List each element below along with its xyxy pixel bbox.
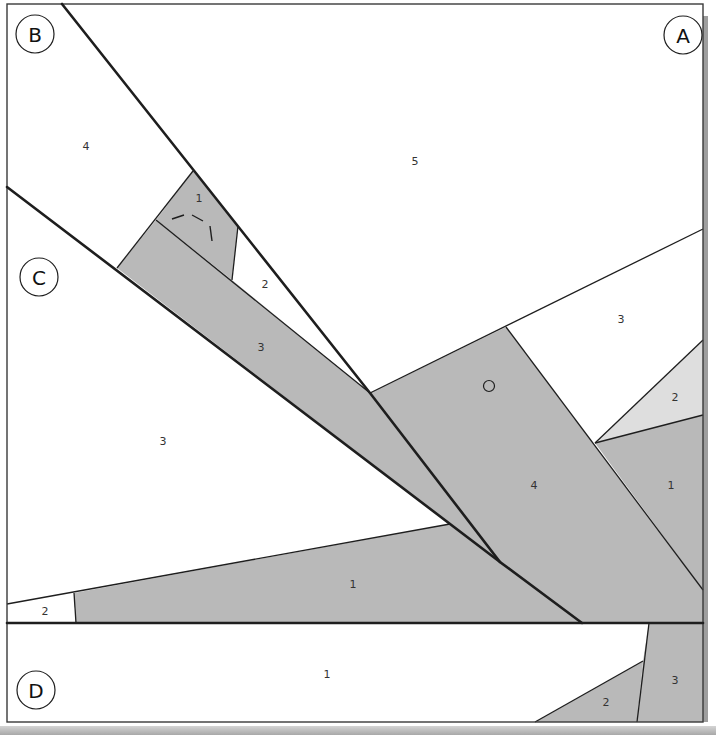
svg-text:B: B (28, 23, 42, 47)
piece-number-b3: 3 (258, 341, 265, 354)
piece-number-a1: 1 (668, 479, 675, 492)
right-edge-strip (703, 16, 708, 722)
svg-text:C: C (32, 266, 46, 290)
piece-number-a4: 4 (531, 479, 538, 492)
piece-number-b4: 4 (83, 140, 90, 153)
piece-number-d1: 1 (324, 668, 331, 681)
piece-number-b2: 2 (262, 278, 269, 291)
piece-number-c2: 2 (42, 605, 49, 618)
piece-number-a2: 2 (672, 391, 679, 404)
section-label-d: D (17, 671, 55, 709)
piece-number-a3: 3 (618, 313, 625, 326)
svg-text:D: D (28, 679, 43, 703)
piecing-diagram: A B C D 5 3 2 4 1 4 1 2 3 3 1 2 1 2 3 (0, 0, 716, 735)
piece-number-d3: 3 (672, 674, 679, 687)
piece-number-a5: 5 (412, 155, 419, 168)
piece-number-c1: 1 (350, 578, 357, 591)
piece-number-c3: 3 (160, 435, 167, 448)
section-label-a: A (664, 16, 702, 54)
svg-text:A: A (676, 24, 690, 48)
section-label-c: C (20, 258, 58, 296)
piece-number-b1: 1 (196, 192, 203, 205)
piece-number-d2: 2 (603, 696, 610, 709)
bottom-edge-strip (0, 726, 716, 735)
section-label-b: B (16, 15, 54, 53)
